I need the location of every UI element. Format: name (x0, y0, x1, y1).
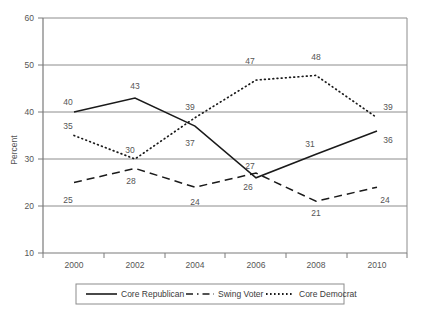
x-tick-2002: 2002 (126, 260, 145, 270)
data-label-rep-2004: 37 (185, 138, 195, 148)
x-tick-2010: 2010 (368, 260, 387, 270)
data-label-swing-2002: 28 (126, 176, 136, 186)
y-axis-labels: 60 50 40 30 20 10 (25, 13, 35, 258)
data-label-swing-2000: 25 (63, 195, 73, 205)
x-tick-2006: 2006 (247, 260, 266, 270)
data-label-dem-2010: 39 (383, 102, 393, 112)
x-axis-ticks (43, 253, 407, 258)
data-label-dem-2006: 47 (245, 56, 255, 66)
legend-label-core-democrat: Core Democrat (299, 289, 357, 299)
data-label-swing-2008: 21 (311, 208, 321, 218)
data-label-swing-2006: 27 (245, 161, 255, 171)
legend-label-core-republican: Core Republican (121, 289, 185, 299)
x-axis-labels: 2000 2002 2004 2006 2008 2010 (65, 260, 387, 270)
data-label-rep-2000: 40 (63, 97, 73, 107)
y-tick-20: 20 (25, 201, 35, 211)
data-label-rep-2010: 36 (383, 135, 393, 145)
legend-label-swing-voter: Swing Voter (218, 289, 264, 299)
y-tick-60: 60 (25, 13, 35, 23)
data-label-dem-2002: 30 (125, 145, 135, 155)
line-chart: 60 50 40 30 20 10 Percent 2000 2002 2004… (0, 0, 421, 310)
y-tick-40: 40 (25, 107, 35, 117)
y-tick-50: 50 (25, 60, 35, 70)
data-label-dem-2000: 35 (63, 121, 73, 131)
x-tick-2004: 2004 (186, 260, 205, 270)
data-label-swing-2010: 24 (380, 195, 390, 205)
data-label-rep-2006: 26 (243, 182, 253, 192)
data-label-rep-2008: 31 (305, 139, 315, 149)
y-tick-30: 30 (25, 154, 35, 164)
data-label-rep-2002: 43 (130, 81, 140, 91)
y-axis-title: Percent (9, 135, 19, 165)
plot-background (43, 18, 407, 253)
y-tick-10: 10 (25, 248, 35, 258)
data-label-swing-2004: 24 (190, 197, 200, 207)
data-label-dem-2008: 48 (311, 52, 321, 62)
x-tick-2000: 2000 (65, 260, 84, 270)
chart-canvas: 60 50 40 30 20 10 Percent 2000 2002 2004… (0, 0, 421, 310)
legend: Core Republican Swing Voter Core Democra… (76, 284, 357, 304)
x-tick-2008: 2008 (307, 260, 326, 270)
y-axis-ticks (38, 18, 43, 253)
data-label-dem-2004: 39 (185, 102, 195, 112)
